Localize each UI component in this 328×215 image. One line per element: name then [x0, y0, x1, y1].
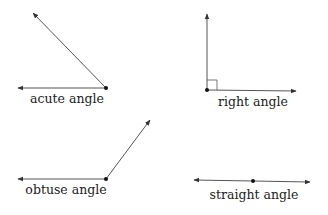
- obtuse-angle: [18, 120, 150, 181]
- straight-vertex-dot: [251, 179, 255, 183]
- acute-ray-1: [33, 13, 106, 88]
- acute-vertex-dot: [104, 86, 108, 90]
- right-angle-label: right angle: [218, 96, 288, 109]
- right-angle: [205, 14, 296, 92]
- acute-angle-label: acute angle: [30, 93, 104, 106]
- right-angle-marker: [207, 80, 217, 90]
- acute-angle: [18, 13, 108, 90]
- straight-ray-2: [253, 181, 310, 182]
- straight-angle-label: straight angle: [210, 189, 299, 202]
- obtuse-ray-2: [106, 120, 150, 179]
- right-vertex-dot: [205, 88, 209, 92]
- straight-ray-1: [194, 180, 253, 181]
- obtuse-angle-label: obtuse angle: [25, 184, 106, 197]
- right-ray-2: [207, 90, 296, 91]
- obtuse-vertex-dot: [104, 177, 108, 181]
- straight-angle: [194, 179, 310, 183]
